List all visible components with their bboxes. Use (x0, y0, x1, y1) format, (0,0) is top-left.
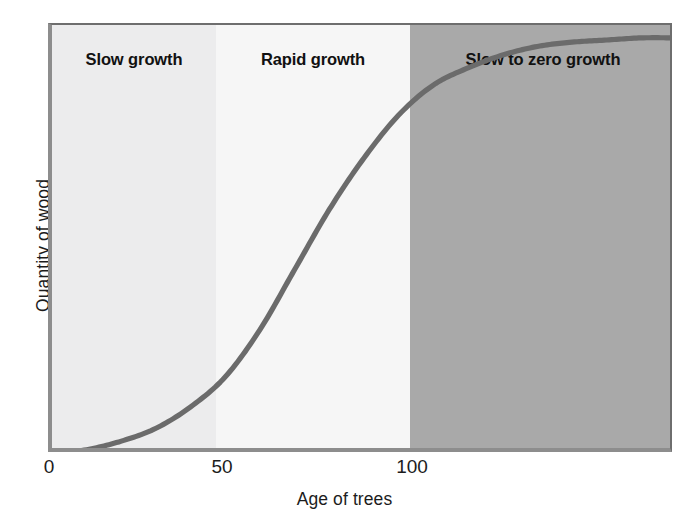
x-tick-label-100: 100 (389, 456, 435, 478)
growth-curve-chart: Quantity of wood Slow growth Rapid growt… (0, 0, 689, 521)
x-tick-label-0: 0 (26, 456, 72, 478)
band-label-rapid-growth: Rapid growth (216, 50, 410, 69)
band-slow-growth (52, 25, 216, 448)
x-tick-label-50: 50 (199, 456, 245, 478)
plot-area: Slow growth Rapid growth Slow to zero gr… (48, 23, 672, 452)
band-label-slow-to-zero-growth: Slow to zero growth (410, 50, 672, 69)
band-rapid-growth (216, 25, 410, 448)
band-slow-to-zero-growth (410, 25, 670, 448)
band-label-slow-growth: Slow growth (52, 50, 216, 69)
x-axis-title: Age of trees (0, 489, 689, 510)
